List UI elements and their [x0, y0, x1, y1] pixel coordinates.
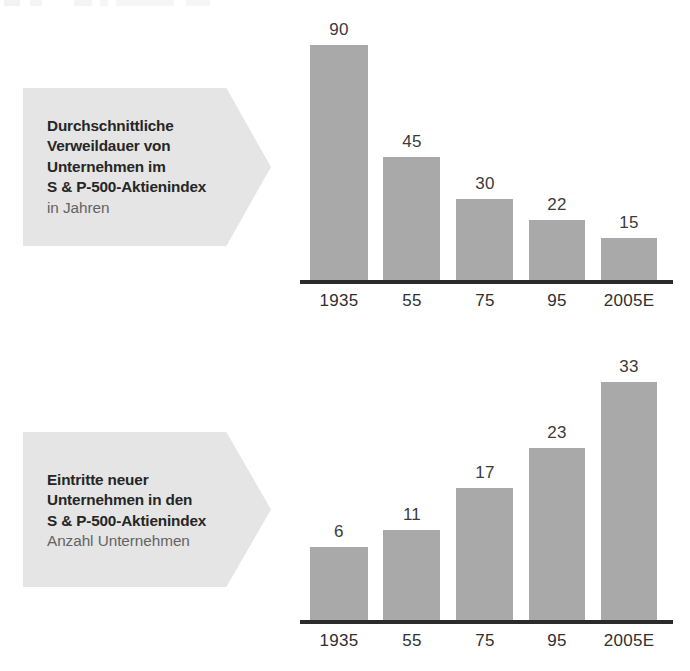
bar-value-bottom-3: 23 — [527, 423, 587, 443]
tick-label-bottom-1: 55 — [380, 630, 444, 651]
bar-value-top-4: 15 — [599, 213, 659, 233]
bar-bottom-1 — [383, 530, 440, 620]
infographic-figure: Durchschnittliche Verweildauer von Unter… — [0, 0, 690, 671]
tick-label-top-2: 75 — [453, 290, 517, 311]
bar-bottom-2 — [456, 488, 513, 620]
bar-top-0 — [310, 45, 368, 280]
bar-value-bottom-2: 17 — [455, 463, 515, 483]
tick-label-bottom-2: 75 — [453, 630, 517, 651]
axis-line-bottom — [300, 620, 673, 624]
bar-top-3 — [529, 220, 585, 280]
bar-value-top-0: 90 — [309, 20, 369, 40]
tick-label-bottom-4: 2005E — [597, 630, 661, 651]
bar-top-1 — [383, 157, 440, 280]
tick-label-top-1: 55 — [380, 290, 444, 311]
tick-label-bottom-0: 1935 — [307, 630, 371, 651]
bar-bottom-3 — [529, 448, 585, 620]
axis-line-top — [300, 280, 673, 284]
bar-value-bottom-1: 11 — [382, 505, 442, 525]
bar-value-bottom-4: 33 — [599, 357, 659, 377]
bar-bottom-4 — [601, 382, 657, 620]
chart-eintritte: 6 11 17 23 33 1935 55 75 95 2005E — [0, 340, 690, 671]
tick-label-top-3: 95 — [525, 290, 589, 311]
bar-top-2 — [456, 199, 513, 280]
chart-verweildauer: 90 45 30 22 15 1935 55 75 95 2005E — [0, 0, 690, 320]
bar-value-bottom-0: 6 — [309, 522, 369, 542]
tick-label-top-0: 1935 — [307, 290, 371, 311]
bar-value-top-3: 22 — [527, 195, 587, 215]
bar-value-top-1: 45 — [382, 132, 442, 152]
bar-top-4 — [601, 238, 657, 280]
bar-bottom-0 — [310, 547, 368, 620]
tick-label-bottom-3: 95 — [525, 630, 589, 651]
bar-value-top-2: 30 — [455, 174, 515, 194]
tick-label-top-4: 2005E — [597, 290, 661, 311]
